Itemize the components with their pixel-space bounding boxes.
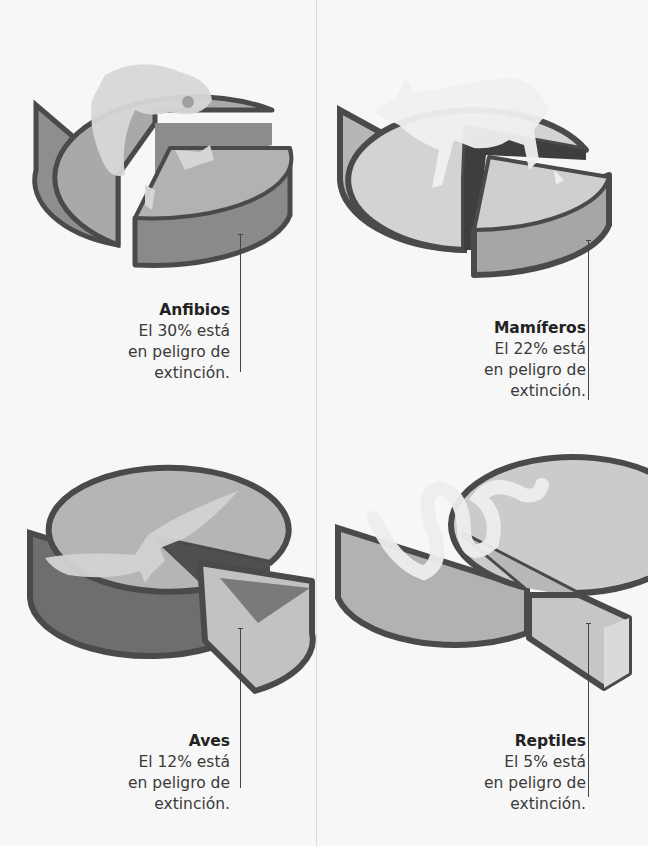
- pie-chart-anfibios: [0, 0, 324, 290]
- description-text: en peligro de: [128, 342, 230, 363]
- category-name: Aves: [128, 731, 230, 752]
- panel-reptiles: Reptiles El 5% está en peligro de extinc…: [324, 423, 648, 846]
- percent-text: El 5% está: [484, 752, 586, 773]
- panel-aves: Aves El 12% está en peligro de extinción…: [0, 423, 324, 846]
- label-aves: Aves El 12% está en peligro de extinción…: [128, 731, 230, 815]
- leader-line-aves: [240, 628, 241, 788]
- description-text: extinción.: [128, 794, 230, 815]
- pie-chart-reptiles: [324, 423, 648, 713]
- leader-line-reptiles: [588, 623, 589, 797]
- percent-text: El 30% está: [128, 321, 230, 342]
- description-text: en peligro de: [128, 773, 230, 794]
- label-reptiles: Reptiles El 5% está en peligro de extinc…: [484, 731, 586, 815]
- category-name: Reptiles: [484, 731, 586, 752]
- leader-line-anfibios: [240, 234, 241, 372]
- percent-text: El 12% está: [128, 752, 230, 773]
- description-text: extinción.: [484, 794, 586, 815]
- panel-anfibios: Anfibios El 30% está en peligro de extin…: [0, 0, 324, 423]
- description-text: extinción.: [484, 381, 586, 402]
- label-mamiferos: Mamíferos El 22% está en peligro de exti…: [484, 318, 586, 402]
- pie-chart-mamiferos: [324, 0, 648, 290]
- pie-chart-aves: [0, 423, 324, 713]
- description-text: en peligro de: [484, 360, 586, 381]
- leader-tick: [586, 240, 591, 241]
- leader-tick: [238, 628, 243, 629]
- description-text: extinción.: [128, 363, 230, 384]
- label-anfibios: Anfibios El 30% está en peligro de extin…: [128, 300, 230, 384]
- description-text: en peligro de: [484, 773, 586, 794]
- leader-tick: [238, 234, 243, 235]
- panel-mamiferos: Mamíferos El 22% está en peligro de exti…: [324, 0, 648, 423]
- percent-text: El 22% está: [484, 339, 586, 360]
- category-name: Mamíferos: [484, 318, 586, 339]
- leader-line-mamiferos: [588, 240, 589, 400]
- category-name: Anfibios: [128, 300, 230, 321]
- leader-tick: [586, 623, 591, 624]
